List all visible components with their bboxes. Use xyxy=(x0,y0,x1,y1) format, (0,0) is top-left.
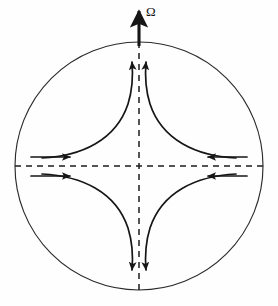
streamline-top-left xyxy=(42,62,133,158)
figure-canvas xyxy=(0,0,278,306)
rotation-axis-label: Ω xyxy=(146,5,156,18)
streamline-top-right xyxy=(145,62,236,158)
streamline-bottom-left xyxy=(42,174,133,270)
streamline-figure: Ω xyxy=(0,0,278,306)
streamline-bottom-right xyxy=(145,174,236,270)
